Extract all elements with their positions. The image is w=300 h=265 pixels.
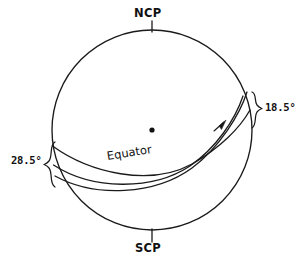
sphere-drawing: [0, 0, 300, 265]
scp-label: SCP: [135, 241, 161, 255]
brace-18-5: [252, 92, 262, 128]
equator-great-circle: [53, 110, 251, 176]
direction-arrow-icon: [214, 120, 226, 131]
sphere-center-dot: [149, 127, 154, 132]
celestial-sphere-figure: NCP SCP Equator 18.5° 28.5°: [0, 0, 300, 265]
angle-label-18-5: 18.5°: [265, 101, 296, 113]
inclined-great-circle-1: [54, 96, 244, 184]
angle-label-28-5: 28.5°: [11, 154, 42, 166]
ncp-label: NCP: [134, 6, 161, 20]
